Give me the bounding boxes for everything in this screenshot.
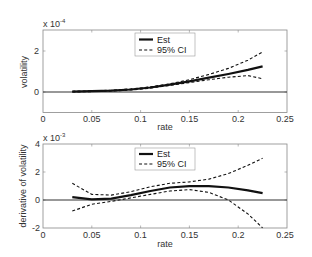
x-tick: 0 bbox=[40, 114, 45, 124]
x-tick: 0.05 bbox=[83, 114, 101, 124]
y-scale-label: x 10-4 bbox=[43, 18, 66, 29]
x-tick: 0.25 bbox=[276, 230, 294, 240]
x-tick: 0.1 bbox=[134, 230, 147, 240]
y-axis-label: derivative of volatility bbox=[18, 144, 28, 228]
y-scale-label: x 10-3 bbox=[43, 132, 66, 143]
y-axis-label: volatility bbox=[19, 55, 29, 88]
plot-derivative: 0 0.05 0.1 0.15 0.2 0.25 -2 0 2 4 x 10-3… bbox=[18, 132, 294, 249]
legend: Est 95% CI bbox=[135, 148, 195, 170]
x-tick: 0.15 bbox=[181, 230, 199, 240]
plot-volatility: 0 0.05 0.1 0.15 0.2 0.25 0 2 x 10-4 rate… bbox=[19, 18, 294, 132]
x-tick: 0.2 bbox=[232, 230, 245, 240]
x-tick: 0.25 bbox=[276, 114, 294, 124]
x-tick: 0.1 bbox=[134, 114, 147, 124]
legend: Est 95% CI bbox=[135, 33, 195, 56]
x-axis-label: rate bbox=[157, 122, 173, 132]
y-tick: 0 bbox=[35, 195, 40, 205]
legend-ci-label: 95% CI bbox=[157, 45, 187, 55]
legend-est-label: Est bbox=[157, 35, 171, 45]
legend-ci-label: 95% CI bbox=[157, 159, 187, 169]
y-tick: -2 bbox=[32, 223, 40, 233]
y-tick: 0 bbox=[34, 87, 39, 97]
x-tick: 0 bbox=[40, 230, 45, 240]
x-tick: 0.05 bbox=[83, 230, 101, 240]
x-tick: 0.2 bbox=[232, 114, 245, 124]
legend-est-label: Est bbox=[157, 149, 171, 159]
y-tick: 2 bbox=[34, 46, 39, 56]
y-tick: 4 bbox=[35, 139, 40, 149]
y-tick: 2 bbox=[35, 167, 40, 177]
x-tick: 0.15 bbox=[181, 114, 199, 124]
figure: 0 0.05 0.1 0.15 0.2 0.25 0 2 x 10-4 rate… bbox=[0, 0, 312, 257]
x-axis-label: rate bbox=[157, 239, 173, 249]
